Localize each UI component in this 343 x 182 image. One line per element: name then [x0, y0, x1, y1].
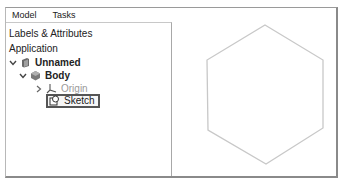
- tree-label-unnamed: Unnamed: [35, 57, 81, 68]
- tree-item-sketch[interactable]: Sketch: [46, 94, 100, 107]
- body-icon: [30, 70, 41, 81]
- panel-title: Labels & Attributes: [9, 28, 92, 39]
- section-title-application: Application: [9, 43, 58, 54]
- model-tree-panel: Labels & Attributes Application Unnamed …: [6, 22, 172, 176]
- tab-tasks[interactable]: Tasks: [45, 8, 84, 23]
- origin-axes-icon: [46, 83, 57, 94]
- 3d-viewport[interactable]: [172, 8, 336, 176]
- tree-item-unnamed[interactable]: Unnamed: [9, 56, 81, 69]
- tab-model[interactable]: Model: [6, 8, 45, 23]
- tree-item-body[interactable]: Body: [19, 69, 70, 82]
- chevron-right-icon[interactable]: [35, 84, 43, 94]
- document-icon: [20, 57, 31, 68]
- tree-label-sketch: Sketch: [64, 95, 95, 106]
- hexagon-sketch: [172, 8, 336, 176]
- tree-label-origin: Origin: [61, 83, 88, 94]
- sketch-icon: [49, 95, 60, 106]
- chevron-down-icon[interactable]: [19, 71, 27, 81]
- tab-bar: Model Tasks: [6, 8, 84, 23]
- selection-highlight[interactable]: Sketch: [46, 94, 100, 108]
- tree-label-body: Body: [45, 70, 70, 81]
- chevron-down-icon[interactable]: [9, 58, 17, 68]
